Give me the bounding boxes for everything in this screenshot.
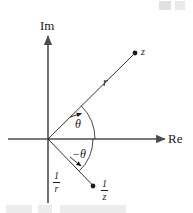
ray-to-z [48,55,133,139]
imaginary-axis-label: Im [40,19,54,32]
figure-canvas [0,0,193,213]
point-marker-z [133,51,138,56]
reciprocal-point-numerator: 1 [101,179,108,190]
reciprocal-point-denominator: z [102,192,108,203]
reciprocal-radius-denominator: r [54,184,60,195]
scan-artifact-top-right [159,1,189,10]
reciprocal-point-label: 1 z [101,179,108,202]
real-axis-label: Re [168,132,182,145]
reciprocal-radius-numerator: 1 [53,171,60,182]
reciprocal-radius-label: 1 r [53,171,60,194]
point-marker-reciprocal-z [91,184,96,189]
radius-label-r: r [103,76,108,88]
angle-arc-positive [81,106,95,139]
point-label-z: z [141,47,145,57]
angle-label-negative-theta: −θ [72,148,86,160]
scan-artifact-caption-bottom [6,205,126,213]
complex-plane-figure: Im Re z r θ −θ 1 r 1 z [0,0,193,213]
angle-label-positive-theta: θ [75,118,81,130]
